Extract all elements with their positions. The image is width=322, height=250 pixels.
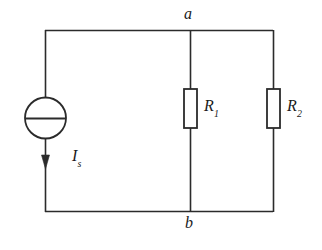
current-source-label: Is [72,148,81,167]
node-label-b: b [185,215,193,231]
current-source-symbol: I [72,147,77,164]
circuit-diagram: a b Is R1 R2 [0,0,322,250]
resistor-2-subscript: 2 [297,108,302,119]
resistor-2-symbol: R [287,97,297,114]
resistor-1-label: R1 [204,98,219,117]
resistor-1-subscript: 1 [214,108,219,119]
circuit-schematic-svg [0,0,322,250]
resistor-1-symbol: R [204,97,214,114]
resistor-2-label: R2 [287,98,302,117]
resistor-2-body [267,89,280,128]
current-source-subscript: s [78,158,82,169]
resistor-1-body [184,89,197,128]
node-label-a: a [184,6,192,22]
current-direction-arrow-icon [42,155,50,169]
